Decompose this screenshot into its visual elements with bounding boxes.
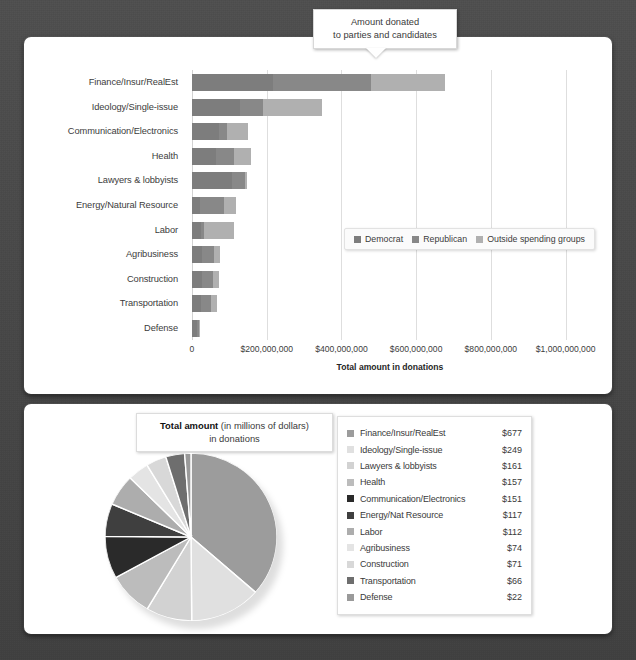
pie-legend-swatch-icon xyxy=(347,594,354,601)
bar-row-label: Agribusiness xyxy=(52,242,178,267)
pie-legend-swatch-icon xyxy=(347,544,354,551)
legend-label: Democrat xyxy=(365,234,403,244)
bar-segment-democrat xyxy=(192,74,273,91)
bar-stack xyxy=(192,197,236,214)
pie-title-rest: (in millions of dollars) xyxy=(218,420,309,431)
bar-track xyxy=(192,193,590,218)
pie-legend-swatch-icon xyxy=(347,446,354,453)
bar-row-label: Lawyers & lobbyists xyxy=(52,168,178,193)
pie-legend-swatch-icon xyxy=(347,430,354,437)
pie-chart-graphic xyxy=(105,453,277,625)
bar-segment-republican xyxy=(202,246,214,263)
bar-row: Construction xyxy=(52,267,590,292)
pie-legend-swatch-icon xyxy=(347,528,354,535)
pie-chart-panel: Total amount (in millions of dollars) in… xyxy=(24,404,612,634)
pie-legend-swatch-icon xyxy=(347,495,354,502)
bar-row: Health xyxy=(52,144,590,169)
legend-label: Republican xyxy=(423,234,467,244)
bar-row-label: Defense xyxy=(52,316,178,341)
pie-legend-label: Communication/Electronics xyxy=(360,494,488,504)
bar-segment-democrat xyxy=(192,295,201,312)
x-axis-tick-label: $400,000,000 xyxy=(315,344,368,354)
pie-legend-row: Labor$112 xyxy=(347,523,522,539)
bar-stack xyxy=(192,123,248,140)
bar-segment-republican xyxy=(201,295,211,312)
bar-segment-democrat xyxy=(192,99,240,116)
pie-legend-label: Lawyers & lobbyists xyxy=(360,461,488,471)
bar-track xyxy=(192,267,590,292)
bar-row-label: Health xyxy=(52,144,178,169)
pie-legend-swatch-icon xyxy=(347,512,354,519)
pie-legend-label: Construction xyxy=(360,559,488,569)
bar-segment-republican xyxy=(240,99,263,116)
pie-legend-value: $249 xyxy=(488,445,522,455)
callout-line-2: to parties and candidates xyxy=(321,29,449,42)
pie-legend-row: Transportation$66 xyxy=(347,573,522,589)
pie-legend-swatch-icon xyxy=(347,561,354,568)
legend-label: Outside spending groups xyxy=(487,234,585,244)
bar-segment-outside-spending-groups xyxy=(245,172,247,189)
pie-legend-row: Communication/Electronics$151 xyxy=(347,491,522,507)
legend-entry: Republican xyxy=(412,234,467,244)
legend-swatch-icon xyxy=(476,236,483,243)
bar-segment-republican xyxy=(200,197,224,214)
pie-legend-row: Agribusiness$74 xyxy=(347,540,522,556)
bar-row-label: Communication/Electronics xyxy=(52,119,178,144)
bar-stack xyxy=(192,172,247,189)
bar-row-label: Finance/Insur/RealEst xyxy=(52,70,178,95)
legend-swatch-icon xyxy=(354,236,361,243)
pie-chart-legend: Finance/Insur/RealEst$677Ideology/Single… xyxy=(337,416,532,615)
bar-row-label: Labor xyxy=(52,218,178,243)
pie-legend-row: Construction$71 xyxy=(347,556,522,572)
bar-segment-outside-spending-groups xyxy=(211,295,217,312)
legend-entry: Democrat xyxy=(354,234,403,244)
bar-stack xyxy=(192,271,219,288)
bar-row: Communication/Electronics xyxy=(52,119,590,144)
bar-segment-outside-spending-groups xyxy=(224,197,236,214)
pie-legend-swatch-icon xyxy=(347,462,354,469)
pie-legend-label: Health xyxy=(360,477,488,487)
pie-chart-title: Total amount (in millions of dollars) in… xyxy=(136,413,333,452)
pie-legend-swatch-icon xyxy=(347,577,354,584)
x-axis-tick-label: $1,000,000,000 xyxy=(536,344,596,354)
bar-track xyxy=(192,144,590,169)
pie-legend-label: Agribusiness xyxy=(360,543,488,553)
bar-stack xyxy=(192,74,445,91)
pie-chart-svg xyxy=(105,453,277,621)
bar-segment-outside-spending-groups xyxy=(371,74,445,91)
pie-legend-row: Finance/Insur/RealEst$677 xyxy=(347,425,522,441)
pie-legend-value: $71 xyxy=(488,559,522,569)
pie-legend-value: $112 xyxy=(488,527,522,537)
pie-title-bold: Total amount xyxy=(160,420,218,431)
bar-row-label: Energy/Natural Resource xyxy=(52,193,178,218)
x-axis-tick-label: $800,000,000 xyxy=(465,344,518,354)
bar-chart: Finance/Insur/RealEstIdeology/Single-iss… xyxy=(24,37,612,394)
pie-legend-value: $66 xyxy=(488,576,522,586)
pie-legend-swatch-icon xyxy=(347,479,354,486)
bar-row: Lawyers & lobbyists xyxy=(52,168,590,193)
bar-row-label: Construction xyxy=(52,267,178,292)
pie-legend-row: Health$157 xyxy=(347,474,522,490)
pie-title-line-2: in donations xyxy=(143,432,326,445)
pie-legend-value: $151 xyxy=(488,494,522,504)
pie-legend-row: Ideology/Single-issue$249 xyxy=(347,441,522,457)
callout-amount-donated: Amount donated to parties and candidates xyxy=(313,9,457,49)
bar-segment-outside-spending-groups xyxy=(263,99,323,116)
bar-segment-outside-spending-groups xyxy=(234,148,251,165)
bar-segment-republican xyxy=(219,123,227,140)
bar-stack xyxy=(192,222,234,239)
x-axis-tick-label: $600,000,000 xyxy=(390,344,443,354)
bar-row: Transportation xyxy=(52,291,590,316)
bar-row: Energy/Natural Resource xyxy=(52,193,590,218)
pie-legend-row: Defense$22 xyxy=(347,589,522,605)
bar-segment-democrat xyxy=(192,172,232,189)
bar-segment-republican xyxy=(273,74,371,91)
pie-slices xyxy=(105,453,277,621)
bar-track xyxy=(192,316,590,341)
bar-track xyxy=(192,95,590,120)
bar-segment-democrat xyxy=(192,222,201,239)
bar-track xyxy=(192,168,590,193)
x-axis-tick-label: $200,000,000 xyxy=(240,344,293,354)
bar-segment-republican xyxy=(202,271,213,288)
bar-track xyxy=(192,119,590,144)
